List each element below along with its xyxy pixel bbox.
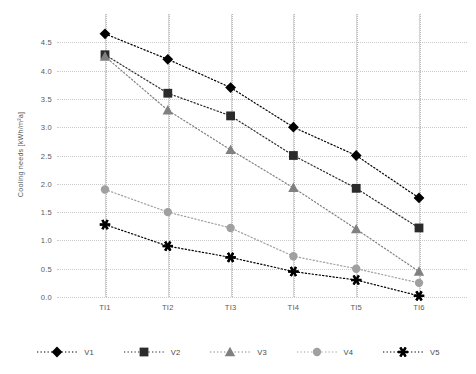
legend-marker-circle-icon: [296, 345, 338, 359]
data-point-marker: [289, 151, 298, 160]
data-point-marker: [289, 252, 297, 260]
x-tick-label-ti5: TI5: [336, 303, 376, 312]
data-point-marker: [415, 279, 423, 287]
legend-marker-triangle-icon: [209, 345, 251, 359]
legend-item-v2[interactable]: V2: [123, 345, 181, 359]
y-axis-label: Cooling needs [kWh/m²a]: [16, 60, 25, 250]
series-line: [105, 189, 419, 282]
series-line: [105, 56, 419, 271]
data-point-marker: [225, 82, 236, 93]
data-point-marker: [100, 220, 110, 229]
legend-label: V3: [257, 348, 267, 357]
y-tick-label: 1.5: [26, 208, 52, 217]
data-point-marker: [225, 253, 235, 262]
data-point-marker: [414, 291, 424, 300]
series-line: [105, 225, 419, 296]
legend-label: V5: [430, 348, 440, 357]
series-line: [105, 34, 419, 198]
data-point-marker: [414, 193, 425, 204]
chart-legend: V1V2V3V4V5: [0, 345, 476, 359]
y-tick-label: 0.0: [26, 293, 52, 302]
data-point-marker: [351, 150, 362, 161]
horizontal-gridline: [57, 297, 467, 298]
series-v1: [100, 28, 425, 203]
x-tick-label-ti1: TI1: [85, 303, 125, 312]
y-tick-label: 2.0: [26, 179, 52, 188]
x-tick-label-ti3: TI3: [211, 303, 251, 312]
y-tick-label: 0.5: [26, 264, 52, 273]
data-point-marker: [163, 89, 172, 98]
legend-label: V4: [344, 348, 354, 357]
y-tick-label: 4.0: [26, 66, 52, 75]
y-tick-label: 3.0: [26, 123, 52, 132]
data-point-marker: [351, 276, 361, 285]
plot-area: [57, 14, 467, 297]
data-point-marker: [163, 242, 173, 251]
legend-marker-square-icon: [123, 345, 165, 359]
legend-item-v5[interactable]: V5: [382, 345, 440, 359]
y-tick-label: 3.5: [26, 94, 52, 103]
series-layer: [57, 14, 467, 297]
data-point-marker: [226, 111, 235, 120]
y-tick-label: 2.5: [26, 151, 52, 160]
legend-item-v3[interactable]: V3: [209, 345, 267, 359]
legend-label: V2: [171, 348, 181, 357]
cooling-needs-line-chart: Cooling needs [kWh/m²a] 0.00.51.01.52.02…: [0, 0, 476, 374]
y-tick-label: 1.0: [26, 236, 52, 245]
data-point-marker: [164, 208, 172, 216]
data-point-marker: [351, 224, 361, 233]
series-line: [105, 55, 419, 228]
series-v5: [100, 220, 424, 300]
data-point-marker: [288, 122, 299, 133]
data-point-marker: [352, 184, 361, 193]
legend-label: V1: [84, 348, 94, 357]
data-point-marker: [162, 54, 173, 65]
data-point-marker: [100, 28, 111, 39]
legend-marker-asterisk-icon: [382, 345, 424, 359]
data-point-marker: [226, 224, 234, 232]
x-tick-label-ti2: TI2: [148, 303, 188, 312]
data-point-marker: [414, 266, 424, 275]
data-point-marker: [101, 185, 109, 193]
legend-marker-diamond-icon: [36, 345, 78, 359]
legend-item-v1[interactable]: V1: [36, 345, 94, 359]
data-point-marker: [415, 224, 424, 233]
x-tick-label-ti6: TI6: [399, 303, 439, 312]
data-point-marker: [288, 183, 298, 192]
y-tick-label: 4.5: [26, 38, 52, 47]
legend-item-v4[interactable]: V4: [296, 345, 354, 359]
data-point-marker: [225, 145, 235, 154]
data-point-marker: [352, 265, 360, 273]
data-point-marker: [288, 267, 298, 276]
x-tick-label-ti4: TI4: [273, 303, 313, 312]
